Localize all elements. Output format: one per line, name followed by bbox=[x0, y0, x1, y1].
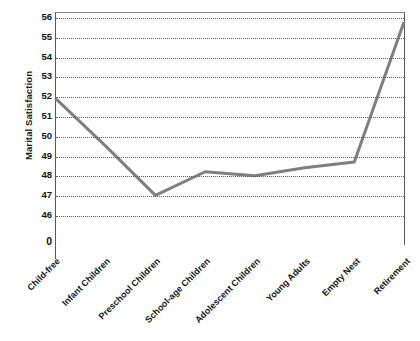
gridline bbox=[56, 18, 404, 19]
gridline bbox=[56, 97, 404, 98]
y-axis-tick-label: 51 bbox=[30, 111, 52, 121]
y-axis-tick-label: 53 bbox=[30, 71, 52, 81]
gridline bbox=[56, 77, 404, 78]
plot-area bbox=[55, 12, 405, 245]
y-axis-tick-label: 48 bbox=[30, 170, 52, 180]
y-axis-zero-label: 0 bbox=[30, 236, 52, 247]
gridline bbox=[56, 196, 404, 197]
y-axis-tick-label: 50 bbox=[30, 131, 52, 141]
y-axis-tick-label: 49 bbox=[30, 151, 52, 161]
gridline bbox=[56, 58, 404, 59]
y-axis-tick-label: 56 bbox=[30, 12, 52, 22]
y-axis-tick-label: 54 bbox=[30, 52, 52, 62]
series-line-marital-satisfaction bbox=[56, 13, 404, 245]
gridline bbox=[56, 38, 404, 39]
line-chart: Marital Satisfaction 5655545352515049484… bbox=[0, 0, 420, 341]
y-axis-tick-label: 55 bbox=[30, 32, 52, 42]
y-axis-tick-labels: 56555453525150494847460 bbox=[26, 0, 52, 260]
x-axis-tick-labels: Child-freeInfant ChildrenPreschool Child… bbox=[0, 256, 420, 341]
gridline bbox=[56, 157, 404, 158]
gridline bbox=[56, 176, 404, 177]
y-axis-tick-label: 46 bbox=[30, 210, 52, 220]
gridline bbox=[56, 117, 404, 118]
gridline bbox=[56, 137, 404, 138]
y-axis-tick-label: 47 bbox=[30, 190, 52, 200]
gridline bbox=[56, 216, 404, 217]
y-axis-tick-label: 52 bbox=[30, 91, 52, 101]
